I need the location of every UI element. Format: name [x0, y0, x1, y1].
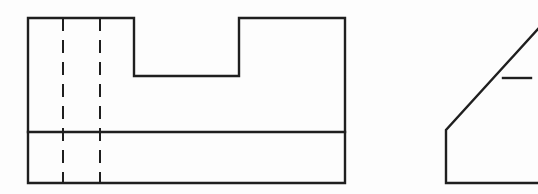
engineering-drawing-canvas	[0, 0, 538, 194]
front-view-outline	[28, 18, 345, 183]
drawing-svg	[0, 0, 538, 194]
side-view	[446, 29, 538, 183]
side-view-outline	[446, 29, 538, 183]
front-view	[28, 18, 345, 183]
